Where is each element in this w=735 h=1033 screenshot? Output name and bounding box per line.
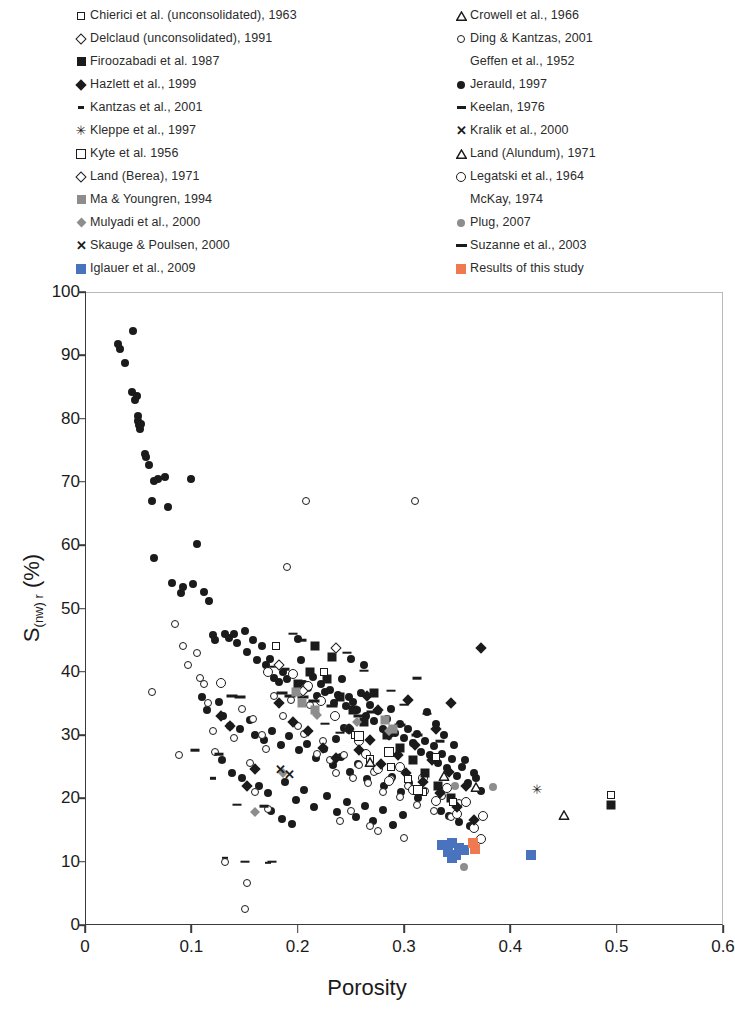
dash-bold-icon [452,237,470,255]
legend-item: Hazlett et al., 1999 [72,73,297,96]
open-diamond-icon [72,30,90,48]
data-point [306,667,315,676]
data-point [121,359,129,367]
data-point [297,656,305,664]
legend-item-label: Iglauer et al., 2009 [90,262,196,275]
legend-item: Results of this study [452,257,596,280]
data-point [323,675,332,684]
grey-square-icon [72,191,90,209]
x-tick-mark [84,925,86,933]
data-point [330,711,340,721]
legend-item: Kantzas et al., 2001 [72,96,297,119]
legend-item: Chierici et al. (unconsolidated), 1963 [72,4,297,27]
legend-item: Jerauld, 1997 [452,73,596,96]
data-point [459,845,469,855]
data-point [404,775,412,783]
y-tick-label: 20 [34,788,80,808]
legend-item: Ding & Kantzas, 2001 [452,27,596,50]
data-point [289,718,297,726]
legend-item-label: Jerauld, 1997 [470,78,547,91]
data-point [332,735,340,743]
x-tick-label: 0 [80,937,89,957]
data-point [175,751,183,759]
data-point [347,807,355,815]
x-tick-mark [297,925,299,933]
open-circle-lg-icon [452,168,470,186]
data-point [171,620,179,628]
data-point [607,791,615,799]
data-point [462,782,470,790]
x-tick-mark [616,925,618,933]
data-point [455,818,463,826]
data-point [439,771,450,781]
x-tick-mark [510,925,512,933]
filled-circle-icon [452,76,470,94]
y-tick-label: 0 [34,915,80,935]
data-point [275,661,283,669]
data-point [292,796,300,804]
open-circle-icon [452,30,470,48]
legend-item: Mulyadi et al., 2000 [72,211,297,234]
data-point [189,580,197,588]
data-point [399,811,407,819]
data-point [440,731,448,739]
data-point [323,792,331,800]
x-tick-label: 0.1 [180,937,204,957]
data-point [295,746,303,754]
data-point [266,655,274,663]
data-point [304,727,312,735]
data-point [320,668,328,676]
data-point [404,696,412,704]
data-point [200,588,208,596]
data-point [148,688,156,696]
data-point [396,793,404,801]
data-point [300,786,308,794]
data-point [193,540,201,548]
data-point [319,744,327,752]
data-point [313,711,320,718]
data-point [243,879,251,887]
legend-item: Iglauer et al., 2009 [72,257,297,280]
legend-column-right: Crowell et al., 1966Ding & Kantzas, 2001… [452,4,596,280]
data-point [204,699,212,707]
legend-item: Ma & Youngren, 1994 [72,188,297,211]
data-point [222,857,228,859]
data-point [262,745,270,753]
legend-item-label: Kyte et al. 1956 [90,147,178,160]
data-point [336,731,345,734]
legend-item-label: Firoozabadi et al. 1987 [90,55,219,68]
data-point [355,746,363,754]
data-point [370,717,378,725]
x-tick-label: 0.6 [711,937,735,957]
legend-item-label: Chierici et al. (unconsolidated), 1963 [90,9,297,22]
x-tick-label: 0.3 [392,937,416,957]
data-point [243,648,251,656]
data-point [275,678,283,686]
open-triangle-icon [452,145,470,163]
data-point [448,755,456,763]
data-point [460,863,468,871]
data-point [447,853,457,863]
data-point [288,669,298,679]
data-point [249,715,257,723]
data-point [226,722,234,730]
data-point [278,815,286,823]
data-point [389,821,397,829]
data-point [215,698,223,706]
y-tick-label: 80 [34,409,80,429]
orange-square-icon [452,260,470,278]
legend-item: McKay, 1974 [452,188,596,211]
data-point [310,642,319,651]
data-point [386,728,393,735]
legend-item: Delclaud (unconsolidated), 1991 [72,27,297,50]
data-point [236,725,244,733]
data-point [310,803,318,811]
data-point [394,751,402,759]
legend-item-label: McKay, 1974 [470,193,543,206]
data-point [348,705,357,714]
data-point [384,747,394,757]
data-point [216,678,226,688]
data-point [297,699,306,708]
data-point [238,705,246,713]
blue-square-icon [72,260,90,278]
